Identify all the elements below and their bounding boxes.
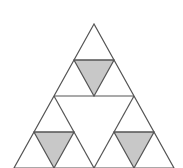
filled-triangle (74, 60, 114, 96)
triangle-lines (14, 24, 174, 168)
filled-triangle (34, 132, 74, 168)
sierpinski-diagram (0, 0, 183, 168)
filled-triangle (114, 132, 154, 168)
filled-triangles (34, 60, 154, 168)
